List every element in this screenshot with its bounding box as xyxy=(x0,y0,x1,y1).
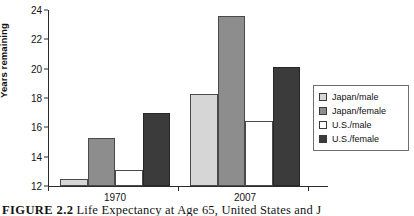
bar xyxy=(115,170,143,186)
legend-swatch-icon xyxy=(319,121,327,129)
y-tick-label: 12 xyxy=(0,181,48,192)
x-group-label: 2007 xyxy=(234,192,256,203)
legend-item: U.S./female xyxy=(319,132,404,146)
bar xyxy=(245,121,273,186)
legend-item: U.S./male xyxy=(319,118,404,132)
bar xyxy=(218,16,246,186)
y-tick-label: 20 xyxy=(0,63,48,74)
bar xyxy=(273,67,301,186)
legend-item-label: U.S./female xyxy=(332,135,379,144)
y-tick-label: 22 xyxy=(0,34,48,45)
legend-swatch-icon xyxy=(319,107,327,115)
figure-caption-text: Life Expectancy at Age 65, United States… xyxy=(77,203,322,216)
legend-item: Japan/male xyxy=(319,90,404,104)
bar xyxy=(60,179,88,186)
x-tick-mark xyxy=(308,186,309,191)
x-tick-mark xyxy=(48,186,49,191)
chart-legend: Japan/maleJapan/femaleU.S./maleU.S./fema… xyxy=(313,85,409,151)
y-tick-label: 24 xyxy=(0,5,48,16)
legend-item-label: Japan/male xyxy=(332,93,379,102)
x-tick-mark xyxy=(178,186,179,191)
legend-item-label: U.S./male xyxy=(332,121,372,130)
plot-area xyxy=(48,10,296,186)
figure-number: FIGURE 2.2 xyxy=(2,203,73,216)
legend-item-label: Japan/female xyxy=(332,107,386,116)
legend-swatch-icon xyxy=(319,135,327,143)
x-group-label: 1970 xyxy=(104,192,126,203)
y-tick-label: 18 xyxy=(0,93,48,104)
bar xyxy=(143,113,171,186)
legend-swatch-icon xyxy=(319,93,327,101)
figure-container: Years remaining 24222018161412 19702007 … xyxy=(0,0,414,216)
bar xyxy=(190,94,218,186)
y-tick-label: 16 xyxy=(0,122,48,133)
y-tick-label: 14 xyxy=(0,151,48,162)
legend-item: Japan/female xyxy=(319,104,404,118)
figure-caption: FIGURE 2.2 Life Expectancy at Age 65, Un… xyxy=(2,203,414,216)
bar xyxy=(88,138,116,186)
x-axis-line xyxy=(48,186,328,187)
